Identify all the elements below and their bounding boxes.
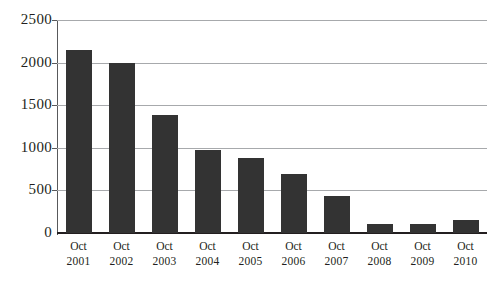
x-axis-label-month: Oct — [358, 239, 401, 254]
x-axis-category-label: Oct2005 — [229, 239, 272, 269]
bar-chart: 05001000150020002500 Oct2001Oct2002Oct20… — [0, 0, 497, 281]
x-axis-category-label: Oct2007 — [315, 239, 358, 269]
bar — [281, 174, 307, 233]
x-axis-label-month: Oct — [229, 239, 272, 254]
x-axis-label-month: Oct — [100, 239, 143, 254]
x-axis-label-year: 2001 — [57, 254, 100, 269]
x-axis-label-year: 2002 — [100, 254, 143, 269]
bar — [410, 224, 436, 233]
x-axis-category-labels: Oct2001Oct2002Oct2003Oct2004Oct2005Oct20… — [57, 239, 487, 279]
x-axis-label-month: Oct — [401, 239, 444, 254]
plot-area — [57, 20, 487, 233]
x-axis-category-label: Oct2006 — [272, 239, 315, 269]
bar — [109, 63, 135, 233]
x-axis-label-year: 2009 — [401, 254, 444, 269]
x-axis-label-year: 2003 — [143, 254, 186, 269]
gridline — [57, 20, 487, 21]
bar — [367, 224, 393, 233]
x-axis-label-month: Oct — [444, 239, 487, 254]
bar — [453, 220, 479, 233]
x-axis-label-month: Oct — [186, 239, 229, 254]
y-axis-tick-mark — [52, 190, 57, 191]
x-axis-label-year: 2010 — [444, 254, 487, 269]
y-axis-tick-mark — [52, 63, 57, 64]
x-axis-category-label: Oct2009 — [401, 239, 444, 269]
x-axis-label-month: Oct — [57, 239, 100, 254]
x-axis-label-year: 2004 — [186, 254, 229, 269]
x-axis-category-label: Oct2010 — [444, 239, 487, 269]
y-axis-tick-mark — [52, 148, 57, 149]
y-axis-tick-label: 1000 — [4, 140, 52, 155]
x-axis-category-label: Oct2004 — [186, 239, 229, 269]
bar — [66, 50, 92, 233]
y-axis-tick-label: 1500 — [4, 97, 52, 112]
bar — [324, 196, 350, 233]
x-axis-label-year: 2006 — [272, 254, 315, 269]
x-axis-label-year: 2007 — [315, 254, 358, 269]
y-axis-tick-label: 0 — [4, 225, 52, 240]
y-axis-tick-mark — [52, 105, 57, 106]
x-axis-label-year: 2008 — [358, 254, 401, 269]
x-axis-label-month: Oct — [272, 239, 315, 254]
x-axis-label-month: Oct — [143, 239, 186, 254]
y-axis-tick-label: 2000 — [4, 55, 52, 70]
bar — [238, 158, 264, 233]
y-axis-tick-labels: 05001000150020002500 — [0, 0, 52, 281]
x-axis-label-year: 2005 — [229, 254, 272, 269]
x-axis-category-label: Oct2002 — [100, 239, 143, 269]
x-axis-label-month: Oct — [315, 239, 358, 254]
y-axis-tick-mark — [52, 20, 57, 21]
y-axis-tick-label: 500 — [4, 182, 52, 197]
x-axis-category-label: Oct2008 — [358, 239, 401, 269]
bar — [195, 150, 221, 233]
bar — [152, 115, 178, 233]
x-axis-category-label: Oct2003 — [143, 239, 186, 269]
y-axis-tick-label: 2500 — [4, 12, 52, 27]
x-axis-category-label: Oct2001 — [57, 239, 100, 269]
